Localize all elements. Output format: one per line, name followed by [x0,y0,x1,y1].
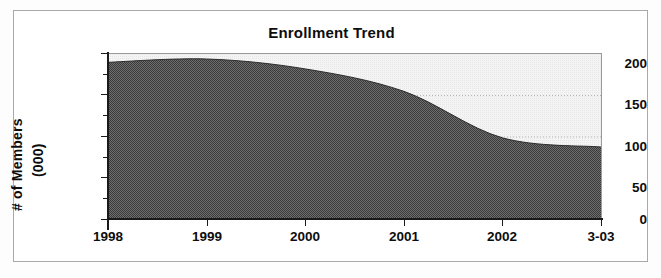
x-axis-line [107,218,603,220]
chart-page: Enrollment Trend # of Members (000) 200 … [0,0,661,278]
chart-frame: Enrollment Trend # of Members (000) 200 … [13,10,648,262]
x-tick-2001 [404,220,405,226]
y-axis-title: # of Members (000) [22,53,62,219]
x-tick-2000 [305,220,306,226]
y-tick-label-150: 150 [601,97,647,112]
y-tick-label-200: 200 [601,56,647,71]
y-axis-line [107,52,109,230]
x-tick-label-2002: 2002 [466,229,538,244]
y-axis-title-line-2: (000) [30,143,46,177]
chart-title: Enrollment Trend [14,24,649,41]
x-tick-label-2000: 2000 [269,229,341,244]
x-tick-1999 [207,220,208,226]
x-tick-label-1999: 1999 [171,229,243,244]
y-tick-label-100: 100 [601,139,647,154]
y-axis-title-line-1: # of Members [9,118,25,211]
x-tick-1998 [108,220,109,226]
x-tick-label-2001: 2001 [368,229,440,244]
x-tick-label-1998: 1998 [72,229,144,244]
x-tick-2002 [502,220,503,226]
y-tick-label-50: 50 [601,180,647,195]
area-series-svg [108,54,601,220]
plot-area [108,53,602,220]
x-tick-label-3-03: 3-03 [565,229,637,244]
x-tick-3-03 [601,220,602,226]
y-tick-label-0: 0 [601,212,647,227]
